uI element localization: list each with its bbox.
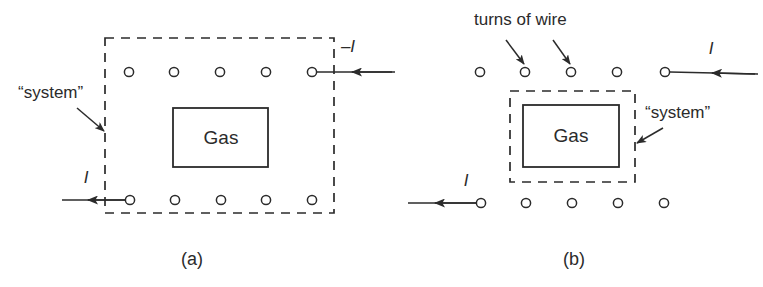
coil-turn-icon: [566, 67, 575, 76]
figure-container: Gas –I: [0, 0, 763, 287]
coil-turn-icon: [521, 198, 530, 207]
coil-turn-icon: [567, 198, 576, 207]
coil-turns-bottom-a: [125, 195, 316, 204]
coil-turn-icon: [124, 67, 133, 76]
system-label-b: “system”: [645, 103, 711, 122]
physics-diagram: Gas –I: [0, 0, 763, 287]
coil-turns-top-b: [475, 67, 669, 76]
current-label-bottom-b: I: [464, 171, 469, 190]
gas-label-a: Gas: [204, 127, 239, 148]
coil-turn-icon: [307, 195, 316, 204]
coil-turn-icon: [475, 67, 484, 76]
coil-turns-bottom-b: [476, 198, 668, 207]
current-label-bottom-a: I: [84, 168, 89, 187]
current-lead-top-b: [670, 72, 758, 74]
coil-turn-icon: [169, 67, 178, 76]
coil-turn-icon: [659, 198, 668, 207]
system-pointer-arrow-a: [77, 108, 104, 131]
coil-turn-icon: [612, 67, 621, 76]
system-label-a: “system”: [18, 83, 84, 102]
panel-b: Gas I: [408, 10, 758, 269]
coil-turn-icon: [613, 198, 622, 207]
system-pointer-arrow-b: [637, 128, 663, 143]
coil-turn-icon: [261, 195, 270, 204]
coil-turn-icon: [216, 195, 225, 204]
coil-turn-icon: [476, 198, 485, 207]
coil-turn-icon: [660, 67, 669, 76]
panel-a: Gas –I: [18, 37, 395, 269]
coil-turn-icon: [261, 67, 270, 76]
turns-pointer-arrow-right: [553, 40, 570, 64]
coil-turn-icon: [215, 67, 224, 76]
coil-turns-top-a: [124, 67, 316, 76]
turns-of-wire-label: turns of wire: [474, 10, 567, 29]
current-label-top-b: I: [709, 39, 714, 58]
coil-turn-icon: [520, 67, 529, 76]
current-label-top-a: –I: [340, 37, 355, 56]
coil-turn-icon: [125, 195, 134, 204]
coil-turn-icon: [170, 195, 179, 204]
panel-caption-a: (a): [181, 249, 203, 269]
turns-pointer-arrow-left: [506, 40, 524, 64]
gas-label-b: Gas: [554, 125, 589, 146]
current-arrow-top-b: [712, 73, 755, 74]
coil-turn-icon: [307, 67, 316, 76]
panel-caption-b: (b): [563, 249, 585, 269]
